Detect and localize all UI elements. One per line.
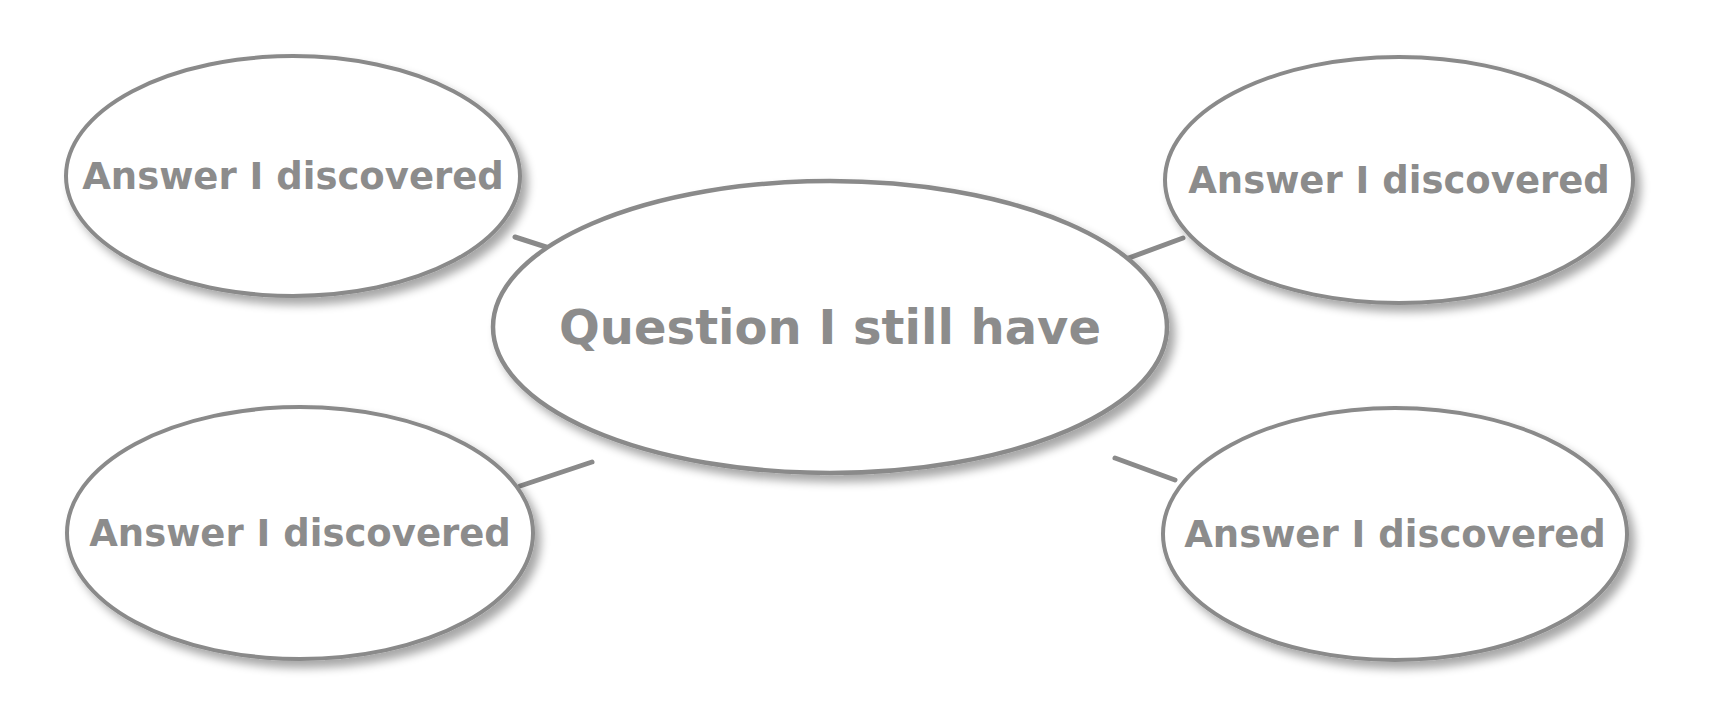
answer-node-bottom-right: Answer I discovered xyxy=(1163,408,1627,660)
graphic-organizer-diagram: Answer I discovered Answer I discovered … xyxy=(0,0,1710,716)
answer-node-top-left: Answer I discovered xyxy=(66,56,520,296)
connector-bottom-right xyxy=(1115,458,1175,480)
answer-node-label: Answer I discovered xyxy=(89,512,511,555)
central-question-node: Question I still have xyxy=(493,181,1167,473)
connector-bottom-left xyxy=(520,462,592,486)
answer-node-label: Answer I discovered xyxy=(82,155,504,198)
answer-node-bottom-left: Answer I discovered xyxy=(67,407,533,659)
answer-node-top-right: Answer I discovered xyxy=(1165,57,1633,303)
answer-node-label: Answer I discovered xyxy=(1184,513,1606,556)
answer-node-label: Answer I discovered xyxy=(1188,159,1610,202)
central-question-label: Question I still have xyxy=(559,299,1101,355)
